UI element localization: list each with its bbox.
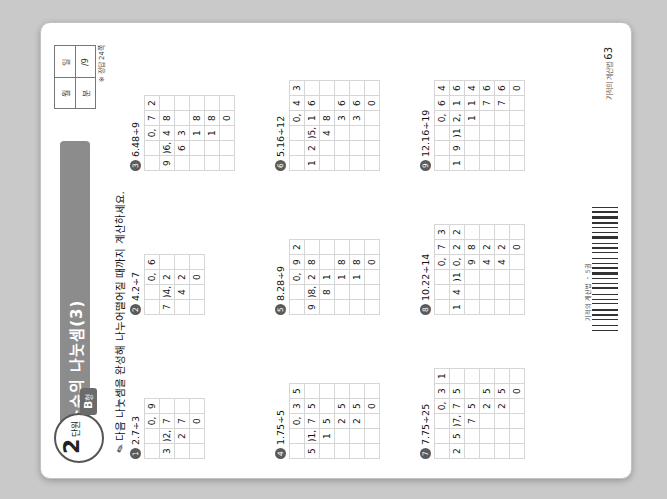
division-cell-filled[interactable]: 5 [335, 398, 350, 413]
division-cell-empty[interactable] [465, 383, 480, 398]
division-cell-empty[interactable] [495, 224, 510, 239]
division-cell-filled[interactable]: 8 [190, 110, 205, 125]
division-cell-empty[interactable] [320, 80, 335, 95]
division-cell-filled[interactable]: 0 [510, 239, 525, 254]
division-cell-empty[interactable] [510, 428, 525, 443]
division-cell-empty[interactable] [350, 80, 365, 95]
division-cell-filled[interactable]: )4, [160, 284, 175, 299]
division-cell-filled[interactable]: 4 [435, 80, 450, 95]
division-cell-empty[interactable] [480, 269, 495, 284]
division-cell-filled[interactable]: 3 [435, 224, 450, 239]
division-cell-filled[interactable]: 5 [465, 398, 480, 413]
division-cell-empty[interactable] [465, 443, 480, 458]
division-cell-empty[interactable] [365, 140, 380, 155]
division-cell-empty[interactable] [145, 155, 160, 170]
division-cell-empty[interactable] [290, 140, 305, 155]
division-cell-empty[interactable] [335, 140, 350, 155]
division-cell-empty[interactable] [465, 224, 480, 239]
division-cell-filled[interactable]: 2 [480, 398, 495, 413]
division-cell-empty[interactable] [335, 443, 350, 458]
division-cell-empty[interactable] [495, 284, 510, 299]
division-cell-filled[interactable]: 1 [335, 269, 350, 284]
division-cell-filled[interactable]: 9 [145, 398, 160, 413]
division-cell-filled[interactable]: 1 [465, 95, 480, 110]
division-cell-empty[interactable] [510, 224, 525, 239]
division-cell-empty[interactable] [175, 398, 190, 413]
division-cell-filled[interactable]: 2 [305, 140, 320, 155]
division-cell-filled[interactable]: 6 [480, 80, 495, 95]
division-cell-empty[interactable] [335, 383, 350, 398]
division-cell-filled[interactable]: 6 [450, 80, 465, 95]
division-cell-filled[interactable]: 1 [435, 368, 450, 383]
division-cell-empty[interactable] [220, 140, 235, 155]
division-cell-empty[interactable] [480, 413, 495, 428]
long-division-grid[interactable]: 0,4312)5,164836360 [289, 80, 380, 171]
division-cell-empty[interactable] [320, 95, 335, 110]
division-cell-filled[interactable]: 0, [450, 254, 465, 269]
division-cell-empty[interactable] [350, 383, 365, 398]
division-cell-filled[interactable]: )6, [160, 140, 175, 155]
division-cell-empty[interactable] [175, 95, 190, 110]
division-cell-empty[interactable] [335, 299, 350, 314]
long-division-grid[interactable]: 0,6419)12,1611476760 [434, 80, 525, 171]
division-cell-filled[interactable]: 0, [145, 125, 160, 140]
division-cell-empty[interactable] [350, 140, 365, 155]
division-cell-empty[interactable] [480, 428, 495, 443]
division-cell-filled[interactable]: 8 [320, 110, 335, 125]
division-cell-filled[interactable]: 0, [290, 413, 305, 428]
division-cell-filled[interactable]: 2 [175, 428, 190, 443]
division-cell-empty[interactable] [335, 80, 350, 95]
division-cell-filled[interactable]: 3 [335, 110, 350, 125]
division-cell-filled[interactable]: 0, [435, 398, 450, 413]
division-cell-empty[interactable] [435, 284, 450, 299]
division-cell-empty[interactable] [290, 155, 305, 170]
division-cell-empty[interactable] [510, 398, 525, 413]
division-cell-empty[interactable] [320, 155, 335, 170]
division-cell-filled[interactable]: 2 [160, 269, 175, 284]
division-cell-filled[interactable]: 7 [465, 413, 480, 428]
division-cell-filled[interactable]: 2 [175, 269, 190, 284]
division-cell-filled[interactable]: 1 [320, 269, 335, 284]
division-cell-filled[interactable]: )2, [160, 428, 175, 443]
division-cell-empty[interactable] [145, 140, 160, 155]
division-cell-empty[interactable] [175, 443, 190, 458]
division-cell-empty[interactable] [320, 254, 335, 269]
division-cell-empty[interactable] [435, 299, 450, 314]
long-division-grid[interactable]: 0,3125)7,757525250 [434, 368, 525, 459]
division-cell-empty[interactable] [465, 284, 480, 299]
division-cell-filled[interactable]: 0 [220, 110, 235, 125]
division-cell-filled[interactable]: 2 [450, 239, 465, 254]
division-cell-empty[interactable] [320, 239, 335, 254]
division-cell-filled[interactable]: )5, [305, 125, 320, 140]
division-cell-filled[interactable]: 1 [305, 110, 320, 125]
division-cell-empty[interactable] [510, 368, 525, 383]
division-cell-empty[interactable] [305, 239, 320, 254]
division-cell-empty[interactable] [350, 284, 365, 299]
division-cell-empty[interactable] [175, 254, 190, 269]
division-cell-empty[interactable] [480, 224, 495, 239]
division-cell-filled[interactable]: 2 [290, 239, 305, 254]
division-cell-empty[interactable] [365, 269, 380, 284]
division-cell-empty[interactable] [435, 443, 450, 458]
division-cell-filled[interactable]: 1 [205, 125, 220, 140]
division-cell-filled[interactable]: 3 [175, 125, 190, 140]
division-cell-empty[interactable] [190, 428, 205, 443]
division-cell-empty[interactable] [435, 155, 450, 170]
division-cell-empty[interactable] [220, 95, 235, 110]
division-cell-empty[interactable] [450, 368, 465, 383]
division-cell-filled[interactable]: 4 [320, 125, 335, 140]
division-cell-empty[interactable] [480, 125, 495, 140]
division-cell-empty[interactable] [320, 299, 335, 314]
division-cell-filled[interactable]: 1 [450, 299, 465, 314]
division-cell-filled[interactable]: 1 [450, 95, 465, 110]
division-cell-empty[interactable] [365, 443, 380, 458]
division-cell-filled[interactable]: )1 [450, 125, 465, 140]
division-cell-empty[interactable] [510, 95, 525, 110]
division-cell-empty[interactable] [480, 368, 495, 383]
division-cell-filled[interactable]: 1 [450, 155, 465, 170]
division-cell-filled[interactable]: 7 [480, 95, 495, 110]
division-cell-empty[interactable] [220, 125, 235, 140]
division-cell-filled[interactable]: 5 [480, 383, 495, 398]
division-cell-empty[interactable] [480, 110, 495, 125]
division-cell-empty[interactable] [495, 269, 510, 284]
